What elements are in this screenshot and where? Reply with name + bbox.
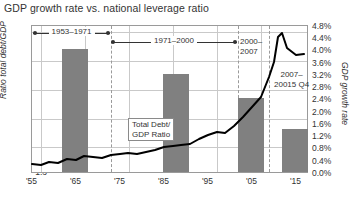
period-note-2000-2007: 2000– 2007 bbox=[240, 37, 262, 56]
right-tick-10: 0.8% bbox=[312, 143, 331, 153]
period-note-2007-2015: 2007– 20015 Q4 bbox=[274, 70, 309, 89]
x-tick-85: '85 bbox=[158, 176, 169, 186]
right-tick-0: 4.8% bbox=[312, 21, 331, 31]
period-span-1971-2000: 1971–2000 bbox=[111, 38, 237, 46]
right-tick-6: 2.4% bbox=[312, 94, 331, 104]
period-span-1953-1971: 1953–1971 bbox=[33, 29, 110, 37]
x-tick-75: '75 bbox=[114, 176, 125, 186]
series-label-total-debt-gdp-ratio: Total Debt/ GDP Ratio bbox=[128, 118, 174, 141]
x-tick-05: '05 bbox=[246, 176, 257, 186]
x-tick-95: '95 bbox=[202, 176, 213, 186]
x-tick-55: '55 bbox=[26, 176, 37, 186]
right-tick-7: 2.0% bbox=[312, 107, 331, 117]
debt-gdp-ratio-line bbox=[32, 26, 309, 174]
right-axis-title: GDP growth rate bbox=[340, 62, 350, 125]
right-tick-2: 4.0% bbox=[312, 45, 331, 55]
plot-area: Total Debt/ GDP Ratio bbox=[31, 25, 308, 173]
x-tick-65: '65 bbox=[70, 176, 81, 186]
right-tick-5: 2.8% bbox=[312, 82, 331, 92]
right-tick-4: 3.2% bbox=[312, 70, 331, 80]
right-tick-9: 1.2% bbox=[312, 131, 331, 141]
right-tick-3: 3.6% bbox=[312, 58, 331, 68]
chart-title: GDP growth rate vs. national leverage ra… bbox=[4, 2, 209, 14]
chart-container: GDP growth rate vs. national leverage ra… bbox=[0, 0, 358, 198]
right-tick-1: 4.4% bbox=[312, 33, 331, 43]
left-axis-title: Ratio total debt/GDP bbox=[0, 21, 8, 99]
right-tick-8: 1.6% bbox=[312, 119, 331, 129]
right-tick-11: 0.4% bbox=[312, 156, 331, 166]
right-tick-12: 0.0% bbox=[312, 168, 331, 178]
x-tick-15: '15 bbox=[290, 176, 301, 186]
